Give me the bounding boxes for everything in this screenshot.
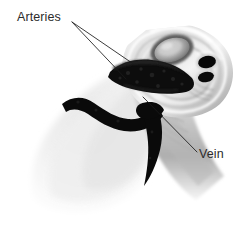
figure-illustration [0,0,241,225]
vein-label: Vein [199,148,224,161]
anatomical-figure: Arteries Vein [0,0,241,225]
arteries-leader-line-2 [72,22,126,79]
arteries-label: Arteries [17,11,61,24]
arteries-leader-line-1 [72,22,132,63]
